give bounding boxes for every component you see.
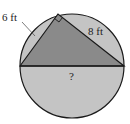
label-6ft: 6 ft <box>2 11 17 23</box>
label-8ft: 8 ft <box>88 25 103 37</box>
leader-line-6ft <box>22 22 35 36</box>
label-diameter-unknown: ? <box>69 70 74 82</box>
circle-triangle-figure: 6 ft 8 ft ? <box>0 0 130 124</box>
diagram-canvas: 6 ft 8 ft ? <box>0 0 130 124</box>
